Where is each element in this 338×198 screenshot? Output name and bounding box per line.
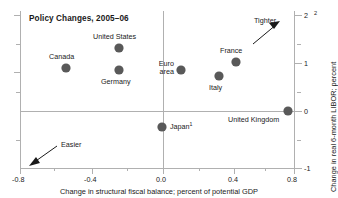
japan-footnote-marker: 1 — [190, 121, 193, 127]
point-label-germany: Germany — [101, 78, 131, 85]
left-tick-marks — [14, 16, 20, 141]
y-axis-title-text: Change in real 6-month LIBOR; percent — [329, 62, 338, 192]
y-tick-label-2: 2 — [304, 12, 308, 19]
y-tick-label-1: 1 — [304, 60, 308, 67]
japan-text: Japan — [170, 122, 190, 131]
data-point-italy — [214, 71, 223, 80]
x-tick-label-00: 0.0 — [156, 176, 166, 183]
point-label-france: France — [220, 47, 242, 54]
annotation-tighter: Tighter — [254, 17, 276, 24]
data-point-euro-area — [176, 65, 185, 74]
point-label-japan: Japan1 — [170, 123, 192, 130]
euro-area-line2: area — [160, 67, 174, 76]
annotation-easier: Easier — [61, 141, 81, 148]
point-label-canada: Canada — [49, 53, 74, 60]
y-axis-footnote-marker: 2 — [314, 11, 317, 17]
y-tick-label-0: 0 — [304, 108, 308, 115]
data-point-japan — [157, 122, 166, 131]
data-point-france — [231, 57, 240, 66]
point-label-italy: Italy — [209, 84, 222, 91]
y-axis-title: Change in real 6-month LIBOR; percent — [329, 62, 338, 192]
y-tick-label-minus1: -1 — [304, 165, 310, 172]
data-point-canada — [61, 63, 70, 72]
x-axis-title: Change in structural fiscal balance; per… — [60, 188, 258, 195]
point-label-united-states: United States — [93, 33, 136, 40]
easier-arrow-icon — [29, 146, 57, 166]
right-tick-marks — [295, 16, 302, 169]
x-tick-label-minus08: -0.8 — [12, 176, 24, 183]
x-tick-label-minus04: -0.4 — [84, 176, 96, 183]
x-tick-label-04: 0.4 — [228, 176, 238, 183]
data-point-germany — [114, 65, 123, 74]
point-label-euro-area: Euroarea — [150, 60, 174, 76]
data-point-united-states — [114, 43, 123, 52]
x-tick-label-08: 0.8 — [287, 176, 297, 183]
data-point-united-kingdom — [283, 106, 292, 115]
point-label-united-kingdom: United Kingdom — [228, 116, 279, 123]
